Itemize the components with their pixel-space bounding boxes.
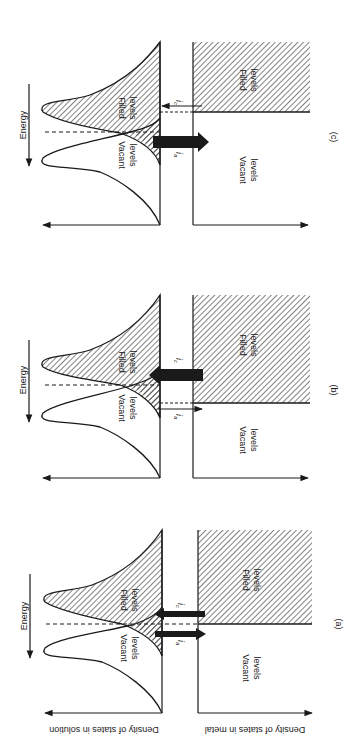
svg-text:levels: levels [130, 588, 140, 612]
solution-axis-title: Density of states in solution [49, 725, 159, 735]
svg-text:levels: levels [249, 68, 259, 92]
svg-text:levels: levels [252, 656, 262, 680]
metal-axis-title: Density of states in metal [205, 725, 306, 735]
panel-a: Energy Filled levels Vacant levels Fille… [19, 530, 344, 735]
svg-text:levels: levels [249, 428, 259, 452]
solution-filled-label: Filled levels [117, 350, 138, 374]
solution-filled-label: Filled levels [117, 96, 138, 120]
svg-text:levels: levels [252, 568, 262, 592]
metal-filled-label: Filled levels [238, 333, 259, 357]
svg-text:Vacant: Vacant [238, 156, 248, 184]
svg-text:Filled: Filled [117, 97, 127, 119]
svg-text:Filled: Filled [119, 589, 129, 611]
metal-vacant-label: Vacant levels [238, 156, 259, 184]
solution-vacant-label: Vacant levels [117, 394, 138, 422]
svg-text:levels: levels [128, 143, 138, 167]
metal-vacant-label: Vacant levels [238, 426, 259, 454]
solution-filled-label: Filled levels [119, 588, 140, 612]
svg-text:Vacant: Vacant [117, 394, 127, 422]
current-a-label: ia [173, 152, 184, 158]
filled-distribution [42, 295, 160, 418]
svg-text:Vacant: Vacant [117, 141, 127, 169]
current-a-label: ia [173, 414, 184, 420]
current-c-label: ic [173, 100, 184, 105]
filled-distribution [42, 42, 160, 165]
energy-label: Energy [18, 365, 28, 394]
current-c-label: ic [173, 358, 184, 363]
svg-text:levels: levels [249, 333, 259, 357]
solution-vacant-label: Vacant levels [117, 141, 138, 169]
svg-text:levels: levels [128, 96, 138, 120]
svg-text:Filled: Filled [117, 351, 127, 373]
panel-caption: (b) [329, 385, 339, 396]
panel-caption: (c) [329, 132, 339, 143]
energy-label: Energy [18, 110, 28, 139]
metal-vacant-label: Vacant levels [241, 654, 262, 682]
panel-c: Energy Filled levels Vacant levels Fille… [18, 42, 339, 225]
panel-b: Energy Filled levels Vacant levels Fille… [18, 295, 339, 478]
cathodic-current-arrow [154, 608, 205, 620]
energy-label: Energy [19, 601, 29, 630]
svg-text:Vacant: Vacant [238, 426, 248, 454]
svg-text:levels: levels [128, 350, 138, 374]
svg-text:Vacant: Vacant [241, 654, 251, 682]
current-a-label: ia [175, 640, 186, 646]
solution-vacant-label: Vacant levels [119, 634, 140, 662]
svg-text:levels: levels [249, 158, 259, 182]
svg-text:Filled: Filled [241, 569, 251, 591]
panel-caption: (a) [334, 619, 344, 630]
anodic-current-arrow [153, 132, 209, 152]
svg-text:Filled: Filled [238, 69, 248, 91]
current-c-label: ic [175, 603, 186, 608]
svg-text:Vacant: Vacant [119, 634, 129, 662]
svg-text:levels: levels [130, 636, 140, 660]
svg-text:Filled: Filled [238, 334, 248, 356]
metal-filled-label: Filled levels [241, 568, 262, 592]
metal-filled-label: Filled levels [238, 68, 259, 92]
electron-transfer-diagram: Energy Filled levels Vacant levels Fille… [0, 0, 362, 756]
svg-text:levels: levels [128, 396, 138, 420]
filled-distribution [44, 530, 162, 656]
